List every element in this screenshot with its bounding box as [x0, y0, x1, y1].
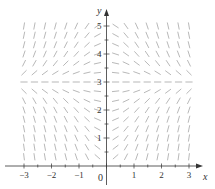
slope-segment: [65, 144, 67, 151]
slope-segment: [167, 107, 170, 114]
slope-segment: [146, 32, 149, 39]
slope-segment: [85, 126, 90, 132]
slope-segment: [167, 32, 169, 39]
slope-segment: [54, 125, 56, 132]
slope-segment: [23, 134, 24, 141]
slope-segment: [94, 91, 101, 92]
slope-segment: [146, 23, 148, 30]
slope-segment: [65, 135, 67, 142]
x-tick-label: 1: [132, 170, 137, 180]
slope-segment: [113, 145, 119, 149]
slope-segment: [63, 98, 68, 103]
slope-segment: [133, 72, 140, 74]
slope-segment: [74, 107, 79, 112]
slope-segment: [177, 51, 180, 58]
slope-segment: [156, 116, 159, 123]
slope-segment: [84, 99, 91, 102]
slope-segment: [42, 89, 48, 93]
slope-segment: [113, 136, 119, 140]
slope-segment: [123, 42, 128, 47]
slope-segment: [54, 107, 57, 113]
slope-segment: [95, 145, 101, 149]
slope-segment: [135, 32, 138, 38]
slope-segment: [135, 135, 138, 142]
slope-segment: [74, 116, 78, 122]
slope-segment: [112, 109, 119, 111]
slope-segment: [85, 144, 89, 150]
slope-segment: [33, 98, 37, 104]
slope-segment: [188, 22, 189, 29]
slope-segment: [167, 41, 169, 48]
slope-segment: [64, 125, 67, 132]
slope-segment: [135, 23, 138, 30]
slope-segment: [43, 98, 47, 104]
slope-segment: [84, 117, 89, 122]
slope-segment: [178, 41, 180, 48]
slope-segment: [44, 134, 46, 141]
x-tick-label: 2: [159, 170, 164, 180]
slope-segment: [84, 108, 90, 112]
slope-segment: [54, 41, 57, 48]
slope-segment: [32, 89, 37, 94]
slope-segment: [112, 62, 119, 64]
slope-segment: [34, 22, 35, 29]
slope-segment: [112, 118, 119, 121]
slope-segment: [74, 42, 78, 48]
y-axis-label: y: [96, 5, 102, 16]
slope-segment: [85, 154, 88, 160]
slope-segment: [73, 90, 80, 92]
slope-segment: [33, 116, 35, 123]
slope-segment: [53, 60, 58, 66]
slope-segment: [135, 116, 139, 122]
slope-segment: [85, 135, 89, 141]
slope-segment: [112, 127, 118, 130]
slope-segment: [136, 153, 138, 160]
slope-segment: [94, 72, 101, 73]
x-axis-label: x: [202, 171, 208, 182]
slope-segment: [112, 43, 119, 46]
slope-segment: [155, 60, 160, 66]
slope-segment: [188, 41, 190, 48]
slope-segment: [43, 107, 46, 114]
slope-segment: [123, 108, 129, 112]
slope-segment: [34, 125, 36, 132]
slope-segment: [157, 32, 159, 39]
slope-segment: [123, 52, 129, 56]
slope-segment: [32, 70, 37, 75]
slope-segment: [65, 23, 67, 30]
slope-segment: [34, 32, 36, 39]
slope-segment: [186, 89, 191, 94]
slope-segment: [94, 127, 100, 130]
slope-segment: [124, 144, 128, 150]
slope-segment: [23, 107, 25, 114]
slope-segment: [188, 134, 189, 141]
slope-segment: [187, 60, 190, 66]
x-tick-label: 3: [187, 170, 192, 180]
slope-segment: [34, 153, 35, 160]
slope-segment: [33, 41, 35, 48]
slope-segment: [52, 89, 58, 93]
slope-segment: [112, 100, 119, 102]
slope-segment: [134, 99, 140, 103]
slope-segment: [176, 89, 181, 94]
slope-segment: [176, 70, 181, 75]
slope-segment: [167, 144, 168, 151]
y-tick-label: 1: [97, 133, 102, 143]
slope-segment: [33, 107, 36, 114]
slope-segment: [21, 70, 26, 75]
slope-segment: [64, 51, 68, 57]
slope-segment: [44, 41, 46, 48]
y-tick-label: 3: [97, 77, 102, 87]
slope-segment: [168, 153, 169, 160]
slope-segment: [55, 153, 56, 160]
slope-segment: [157, 135, 159, 142]
slope-segment: [65, 153, 67, 160]
slope-segment: [63, 71, 69, 74]
slope-segment: [165, 89, 171, 93]
slope-segment: [157, 125, 159, 132]
slope-segment: [112, 34, 118, 37]
slope-segment: [64, 42, 67, 48]
slope-segment: [54, 116, 57, 123]
slope-segment: [177, 107, 180, 114]
slope-segment: [44, 153, 45, 160]
